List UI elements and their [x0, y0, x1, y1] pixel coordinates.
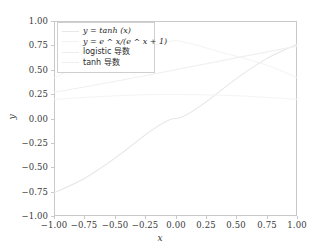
legend-item: logistic 导数 — [62, 47, 150, 58]
ytick-mark — [51, 21, 54, 22]
ytick-label: −0.25 — [21, 139, 48, 148]
legend-line-swatch — [62, 41, 79, 42]
legend-item-label: tanh 导数 — [83, 58, 120, 68]
xtick-mark — [297, 216, 298, 219]
xtick-mark — [206, 216, 207, 219]
y-axis-title: y — [7, 114, 17, 119]
ytick-mark — [51, 70, 54, 71]
xtick-mark — [176, 216, 177, 219]
curve-logistic-derivative — [54, 94, 297, 99]
chart-figure: 1.00 0.75 0.50 0.25 0.00 −0.25 −0.50 −0.… — [0, 0, 320, 251]
ytick-mark — [51, 45, 54, 46]
xtick-label: 0.75 — [257, 221, 276, 230]
legend-item: y = tanh (x) — [62, 26, 150, 37]
xtick-label: −1.00 — [41, 221, 68, 230]
xtick-label: 0.25 — [196, 221, 215, 230]
ytick-mark — [51, 119, 54, 120]
xtick-mark — [54, 216, 55, 219]
xtick-mark — [115, 216, 116, 219]
ytick-label: −0.50 — [21, 163, 48, 172]
ytick-mark — [51, 94, 54, 95]
ytick-label: 0.25 — [29, 90, 48, 99]
legend-line-swatch — [62, 62, 79, 63]
chart-legend: y = tanh (x) y = e ^ x/(e ^ x + 1) logis… — [57, 22, 155, 73]
legend-item: y = e ^ x/(e ^ x + 1) — [62, 37, 150, 48]
xtick-label: −0.50 — [102, 221, 129, 230]
ytick-mark — [51, 192, 54, 193]
legend-item-label: logistic 导数 — [83, 47, 130, 57]
x-axis-title: x — [0, 233, 320, 243]
ytick-label: 0.75 — [29, 41, 48, 50]
legend-item: tanh 导数 — [62, 58, 150, 69]
xtick-label: 1.00 — [287, 221, 306, 230]
xtick-label: −0.25 — [132, 221, 159, 230]
legend-line-swatch — [62, 52, 79, 53]
legend-item-label: y = e ^ x/(e ^ x + 1) — [83, 37, 167, 47]
xtick-mark — [145, 216, 146, 219]
ytick-label: 0.50 — [29, 66, 48, 75]
xtick-mark — [267, 216, 268, 219]
ytick-label: 0.00 — [29, 115, 48, 124]
xtick-label: 0.50 — [226, 221, 245, 230]
ytick-label: 1.00 — [29, 17, 48, 26]
xtick-mark — [236, 216, 237, 219]
legend-item-label: y = tanh (x) — [83, 26, 131, 36]
legend-line-swatch — [62, 31, 79, 32]
ytick-mark — [51, 167, 54, 168]
xtick-mark — [84, 216, 85, 219]
ytick-mark — [51, 143, 54, 144]
ytick-label: −0.75 — [21, 188, 48, 197]
xtick-label: 0.00 — [166, 221, 185, 230]
xtick-label: −0.75 — [71, 221, 98, 230]
